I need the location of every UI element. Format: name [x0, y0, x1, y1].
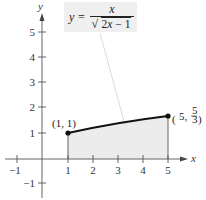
y-axis-label: y: [37, 0, 43, 12]
svg-text:4: 4: [140, 164, 146, 176]
point-label-1-1: (1, 1): [52, 117, 76, 130]
y-tick-labels: 5 4 3 2 1 −1: [23, 26, 35, 189]
svg-text:5: 5: [30, 26, 36, 38]
equation-fraction: x 2x − 1: [89, 3, 135, 31]
equation-numerator: x: [89, 3, 135, 16]
svg-text:4: 4: [30, 51, 36, 63]
x-tick-labels: −1 1 2 3 4 5: [9, 164, 171, 176]
leader-line: [100, 33, 125, 125]
equation-denominator: 2x − 1: [89, 17, 135, 31]
svg-text:(: (: [172, 113, 176, 126]
svg-text:−1: −1: [23, 177, 35, 189]
equation-label-box: y = x 2x − 1: [64, 2, 137, 32]
svg-text:3: 3: [115, 164, 121, 176]
svg-text:1: 1: [65, 164, 71, 176]
svg-text:): ): [198, 113, 202, 126]
x-axis-label: x: [190, 152, 196, 164]
x-axis-arrow-icon: [180, 157, 188, 162]
point-label-5-5-3: ( 5, 5 3 ): [172, 104, 202, 126]
equation-lhs: y =: [69, 10, 85, 25]
svg-text:3: 3: [30, 76, 36, 88]
point-5-5-3: [165, 113, 170, 118]
svg-text:2: 2: [30, 101, 36, 113]
svg-text:2: 2: [90, 164, 96, 176]
sqrt-icon: 2x − 1: [93, 18, 132, 30]
svg-text:−1: −1: [9, 164, 21, 176]
svg-text:1: 1: [30, 127, 36, 139]
point-1-1: [65, 130, 70, 135]
equation: y = x 2x − 1: [64, 2, 137, 32]
svg-text:5,: 5,: [179, 110, 188, 122]
y-axis-arrow-icon: [40, 13, 45, 21]
svg-text:5: 5: [165, 164, 171, 176]
